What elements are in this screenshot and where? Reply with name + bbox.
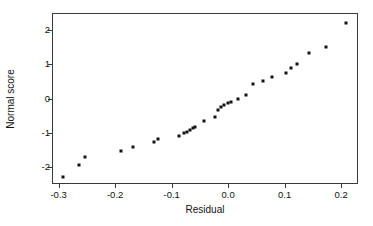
x-axis-tick-label: 0.0 — [222, 190, 235, 200]
data-point — [194, 126, 197, 129]
y-axis-tick-label: 0 — [45, 94, 50, 104]
data-point — [132, 145, 135, 148]
data-point — [152, 140, 155, 143]
y-axis-tick-label: 2 — [45, 25, 50, 35]
data-point — [345, 21, 348, 24]
data-point — [62, 175, 65, 178]
data-point — [307, 52, 310, 55]
x-axis-tick — [285, 183, 286, 188]
x-axis-tick-label: -0.3 — [50, 190, 66, 200]
data-point — [237, 98, 240, 101]
x-axis-tick — [228, 183, 229, 188]
data-point — [325, 45, 328, 48]
y-axis-title: Normal score — [4, 13, 18, 184]
data-point — [284, 72, 287, 75]
plot-frame: 210-1-2-0.3-0.2-0.10.00.10.2 — [52, 13, 358, 184]
data-point — [245, 93, 248, 96]
data-point — [295, 62, 298, 65]
y-axis-tick-label: -1 — [42, 128, 50, 138]
y-axis-tick-label: -2 — [42, 162, 50, 172]
x-axis-tick — [59, 183, 60, 188]
data-point — [261, 80, 264, 83]
x-axis-tick — [115, 183, 116, 188]
data-point — [178, 135, 181, 138]
x-axis-tick-label: -0.1 — [163, 190, 179, 200]
x-axis-tick — [341, 183, 342, 188]
x-axis-tick-label: 0.2 — [335, 190, 348, 200]
data-point — [216, 109, 219, 112]
data-point — [120, 150, 123, 153]
x-axis-tick — [172, 183, 173, 188]
data-point — [252, 83, 255, 86]
x-axis-title: Residual — [52, 205, 358, 215]
x-axis-tick-label: 0.1 — [278, 190, 291, 200]
data-point — [77, 163, 80, 166]
data-point — [157, 137, 160, 140]
data-point — [214, 116, 217, 119]
plot-area — [53, 14, 357, 183]
normal-probability-plot-figure: Normal score 210-1-2-0.3-0.2-0.10.00.10.… — [0, 0, 373, 226]
data-point — [271, 75, 274, 78]
data-point — [83, 156, 86, 159]
data-point — [203, 120, 206, 123]
x-axis-tick-label: -0.2 — [107, 190, 123, 200]
data-point — [229, 100, 232, 103]
y-axis-tick-label: 1 — [45, 60, 50, 70]
y-axis-title-text: Normal score — [6, 69, 16, 128]
data-point — [290, 67, 293, 70]
